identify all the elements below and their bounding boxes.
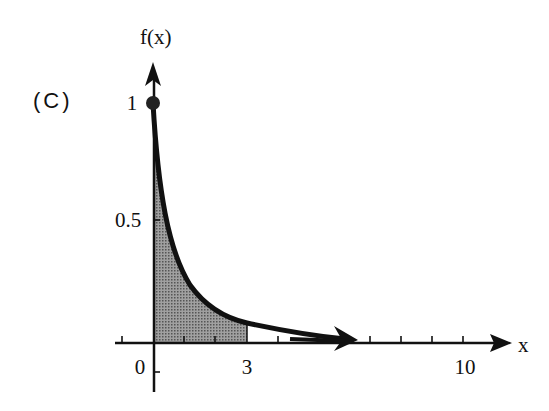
panel-label: (C) <box>33 88 73 113</box>
y-axis-label: f(x) <box>140 25 171 49</box>
y-tick-1: 1 <box>127 91 138 115</box>
x-axis-label: x <box>518 333 529 357</box>
x-tick-3: 3 <box>242 355 253 379</box>
y-tick-0-5: 0.5 <box>115 208 141 232</box>
figure-canvas: (C) f(x) x 1 0.5 0 3 10 <box>0 0 549 411</box>
x-tick-0: 0 <box>135 355 146 379</box>
x-tick-10: 10 <box>455 355 476 379</box>
point-marker <box>146 96 160 110</box>
